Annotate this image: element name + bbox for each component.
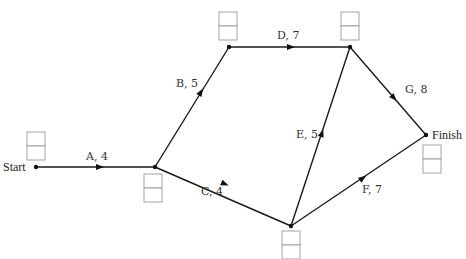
time-box-node-3 [219, 12, 237, 40]
edge-b [155, 47, 229, 167]
arrow-icon-d [287, 44, 295, 50]
activity-label-d: D, 7 [277, 29, 299, 42]
node-start [34, 165, 38, 169]
activity-network-diagram: Start Finish A, 4 B, 5 C, 4 D, 7 E, 5 F,… [0, 0, 466, 259]
activity-label-c: C, 4 [201, 185, 223, 198]
time-box-node-5 [282, 231, 300, 259]
activity-label-e: E, 5 [296, 128, 318, 141]
edge-f [291, 135, 426, 226]
arrow-icon-a [96, 164, 104, 170]
activity-label-b: B, 5 [176, 77, 198, 90]
node-3 [227, 45, 231, 49]
finish-label: Finish [432, 128, 462, 142]
time-box-finish [423, 145, 441, 173]
time-box-start [27, 132, 45, 160]
node-5 [289, 224, 293, 228]
start-label: Start [3, 160, 26, 174]
node-4 [348, 45, 352, 49]
activity-label-f: F, 7 [362, 183, 382, 196]
arrow-icon-e [318, 128, 326, 137]
time-box-node-4 [341, 12, 359, 40]
node-finish [424, 133, 428, 137]
node-2 [153, 165, 157, 169]
activity-label-a: A, 4 [85, 150, 108, 163]
activity-label-g: G, 8 [405, 83, 427, 96]
time-box-node-2 [144, 174, 162, 202]
